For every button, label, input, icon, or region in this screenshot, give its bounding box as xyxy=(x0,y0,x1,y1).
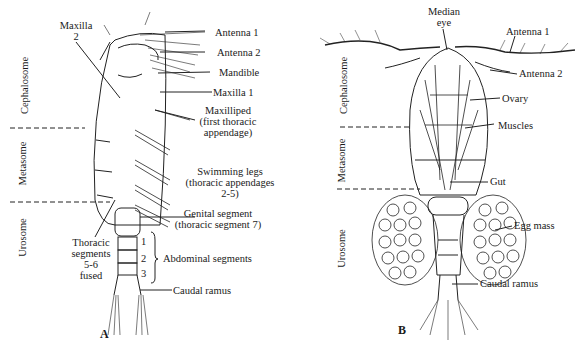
abdominal-segment-1: 1 xyxy=(141,236,146,247)
region-cephalosome-a: Cephalosome xyxy=(19,56,30,116)
label-egg-mass: Egg mass xyxy=(514,220,555,231)
label-antenna-1-a: Antenna 1 xyxy=(215,27,258,38)
label-median-eye: Median eye xyxy=(422,6,466,28)
egg-mass-right xyxy=(460,195,526,285)
label-mandible: Mandible xyxy=(219,67,259,78)
label-maxilla-1: Maxilla 1 xyxy=(213,87,254,98)
label-maxilla-2: Maxilla 2 xyxy=(56,20,96,42)
label-maxilliped: Maxilliped (first thoracic appendage) xyxy=(192,105,264,138)
label-caudal-ramus-a: Caudal ramus xyxy=(173,285,231,296)
region-urosome-b: Urosome xyxy=(336,224,347,274)
label-thoracic-segments: Thoracic segments 5-6 fused xyxy=(66,237,116,281)
label-caudal-ramus-b: Caudal ramus xyxy=(480,278,538,289)
region-metasome-b: Metasome xyxy=(336,136,347,186)
panel-letter-a: A xyxy=(100,327,109,342)
label-antenna-1-b: Antenna 1 xyxy=(506,26,549,37)
label-gut: Gut xyxy=(490,176,506,187)
label-ovary: Ovary xyxy=(502,93,528,104)
region-cephalosome-b: Cephalosome xyxy=(338,56,349,116)
label-antenna-2-b: Antenna 2 xyxy=(519,68,562,79)
region-metasome-a: Metasome xyxy=(17,139,28,189)
label-abdominal-segments: Abdominal segments xyxy=(163,253,252,264)
copepod-line-art xyxy=(0,0,583,345)
panel-letter-b: B xyxy=(398,323,406,338)
abdominal-segment-3: 3 xyxy=(141,268,146,279)
egg-mass-left xyxy=(372,195,438,285)
region-urosome-a: Urosome xyxy=(17,213,28,263)
abdominal-segment-2: 2 xyxy=(141,253,146,264)
label-genital-segment: Genital segment (thoracic segment 7) xyxy=(168,208,268,230)
label-swimming-legs: Swimming legs (thoracic appendages 2-5) xyxy=(180,166,280,199)
label-muscles: Muscles xyxy=(498,120,533,131)
label-antenna-2-a: Antenna 2 xyxy=(217,47,260,58)
